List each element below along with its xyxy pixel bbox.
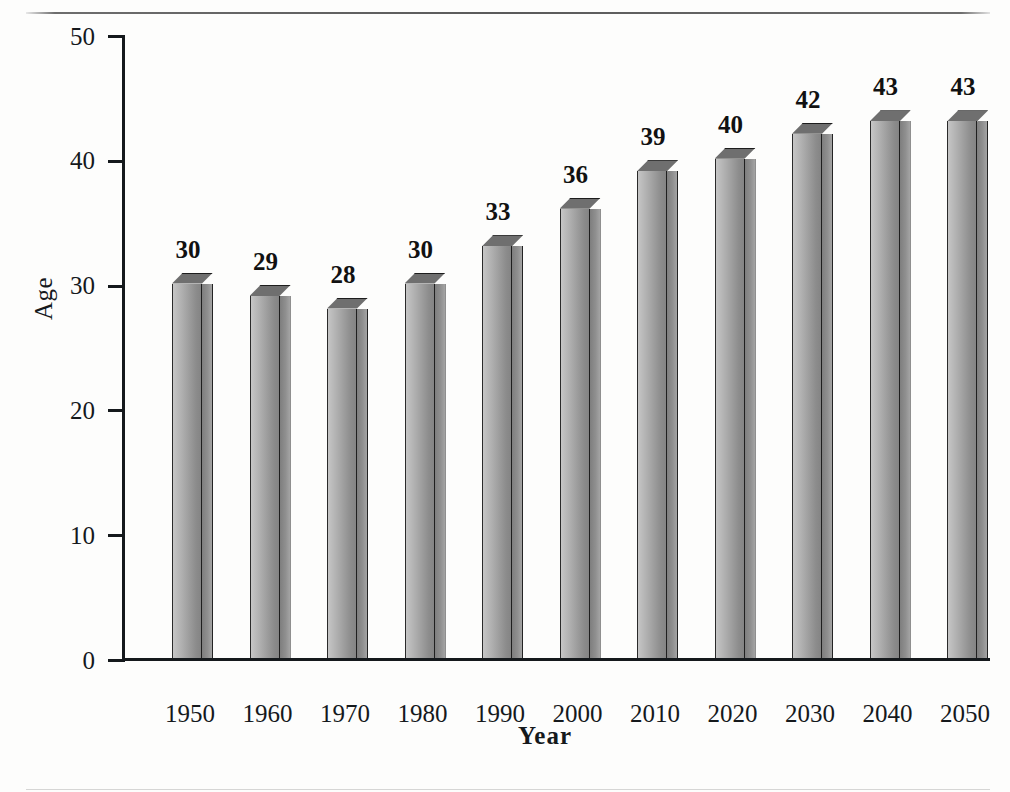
bar-top-face: [482, 235, 523, 246]
bar-side-face: [745, 159, 756, 658]
bar-side-face: [280, 296, 291, 658]
bar-side-face: [357, 309, 368, 658]
y-axis-title: Age: [30, 277, 58, 320]
y-axis-tick: 20: [108, 409, 125, 412]
y-axis-tick-label: 30: [70, 273, 95, 298]
bar-side-face: [512, 246, 523, 658]
bar-value-label: 43: [873, 73, 898, 101]
bar-value-label: 42: [796, 86, 821, 114]
bar-column: 281970: [327, 309, 357, 658]
bar-top-face: [792, 123, 833, 134]
bar-value-label: 28: [331, 261, 356, 289]
bar-column: 422030: [792, 134, 822, 658]
bar-value-label: 43: [951, 73, 976, 101]
x-axis-line: [122, 658, 990, 661]
bar-side-face: [590, 209, 601, 658]
page-bottom-rule: [26, 789, 990, 790]
bar-front-face: [560, 209, 590, 658]
bar-front-face: [250, 296, 280, 658]
bar-top-face: [172, 273, 213, 284]
bar-top-face: [560, 198, 601, 209]
plot-area: 01020304050 3019502919602819703019803319…: [122, 37, 990, 661]
bar-front-face: [482, 246, 512, 658]
bar-top-face: [250, 285, 291, 296]
y-axis-tick: 10: [108, 534, 125, 537]
bar-value-label: 36: [563, 161, 588, 189]
chart-page: Age 01020304050 301950291960281970301980…: [0, 0, 1010, 792]
bar-value-label: 33: [486, 198, 511, 226]
bar-front-face: [327, 309, 357, 658]
bar-top-face: [405, 273, 446, 284]
bar-front-face: [870, 121, 900, 658]
bar-front-face: [637, 171, 667, 658]
bar-column: 432040: [870, 121, 900, 658]
page-top-rule: [26, 12, 990, 14]
y-axis-tick-label: 40: [70, 148, 95, 173]
bar-value-label: 30: [408, 236, 433, 264]
bar-side-face: [900, 121, 911, 658]
y-axis-tick-label: 0: [83, 648, 96, 673]
bar-column: 362000: [560, 209, 590, 658]
y-axis-tick: 40: [108, 160, 125, 163]
bar-side-face: [435, 284, 446, 658]
bar-top-face: [715, 148, 756, 159]
bar-value-label: 30: [176, 236, 201, 264]
y-axis-tick: 50: [108, 35, 125, 38]
y-axis-tick-label: 10: [70, 523, 95, 548]
x-axis-title: Year: [0, 722, 1010, 750]
bar-value-label: 40: [718, 111, 743, 139]
bar-front-face: [792, 134, 822, 658]
bar-column: 432050: [947, 121, 977, 658]
bar-side-face: [202, 284, 213, 658]
bar-column: 301950: [172, 284, 202, 658]
y-axis-tick-label: 50: [70, 24, 95, 49]
bar-side-face: [977, 121, 988, 658]
bar-top-face: [327, 298, 368, 309]
y-axis-tick: 0: [108, 659, 125, 662]
y-axis-tick-label: 20: [70, 398, 95, 423]
y-axis-tick: 30: [108, 285, 125, 288]
bar-front-face: [947, 121, 977, 658]
bar-top-face: [870, 110, 911, 121]
y-axis-line: [122, 37, 125, 661]
bar-front-face: [405, 284, 435, 658]
bar-column: 301980: [405, 284, 435, 658]
bar-side-face: [822, 134, 833, 658]
bar-side-face: [667, 171, 678, 658]
bar-value-label: 39: [641, 123, 666, 151]
bar-column: 402020: [715, 159, 745, 658]
bar-column: 291960: [250, 296, 280, 658]
bar-value-label: 29: [253, 248, 278, 276]
bar-front-face: [172, 284, 202, 658]
bar-column: 392010: [637, 171, 667, 658]
bar-column: 331990: [482, 246, 512, 658]
bar-top-face: [947, 110, 988, 121]
x-axis-title-text: Year: [518, 722, 572, 750]
bar-top-face: [637, 160, 678, 171]
bar-front-face: [715, 159, 745, 658]
